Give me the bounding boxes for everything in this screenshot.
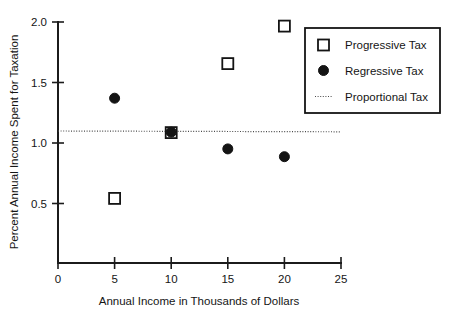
legend-marker-progressive — [318, 40, 329, 51]
data-point-regressive — [166, 127, 176, 137]
x-tick-label-20: 20 — [278, 273, 291, 285]
y-tick-label-2: 2.0 — [31, 16, 47, 28]
data-point-regressive — [110, 93, 120, 103]
legend-label-proportional: Proportional Tax — [345, 91, 428, 103]
scatter-plot: 2.0 1.5 1.0 0.5 0 5 10 15 20 25 Annual I… — [0, 0, 453, 320]
legend-marker-regressive — [319, 66, 329, 76]
x-tick-label-25: 25 — [335, 273, 348, 285]
y-tick-label-1_5: 1.5 — [31, 77, 47, 89]
y-tick-label-1: 1.0 — [31, 137, 47, 149]
legend-label-regressive: Regressive Tax — [345, 65, 424, 77]
x-tick-label-5: 5 — [111, 273, 117, 285]
proportional-tax-line — [58, 131, 341, 132]
chart-legend: Progressive Tax Regressive Tax Proportio… — [305, 28, 440, 113]
x-axis-title: Annual Income in Thousands of Dollars — [99, 295, 300, 307]
data-point-progressive — [109, 193, 120, 204]
x-tick-label-10: 10 — [165, 273, 178, 285]
data-point-regressive — [223, 144, 233, 154]
data-point-progressive — [279, 21, 290, 32]
data-point-regressive — [279, 152, 289, 162]
x-tick-label-0: 0 — [55, 273, 61, 285]
x-tick-label-15: 15 — [221, 273, 234, 285]
chart-figure: 2.0 1.5 1.0 0.5 0 5 10 15 20 25 Annual I… — [0, 0, 453, 320]
y-axis-title: Percent Annual Income Spent for Taxation — [8, 35, 20, 250]
data-point-progressive — [222, 58, 233, 69]
legend-label-progressive: Progressive Tax — [345, 39, 427, 51]
y-tick-label-0_5: 0.5 — [31, 198, 47, 210]
